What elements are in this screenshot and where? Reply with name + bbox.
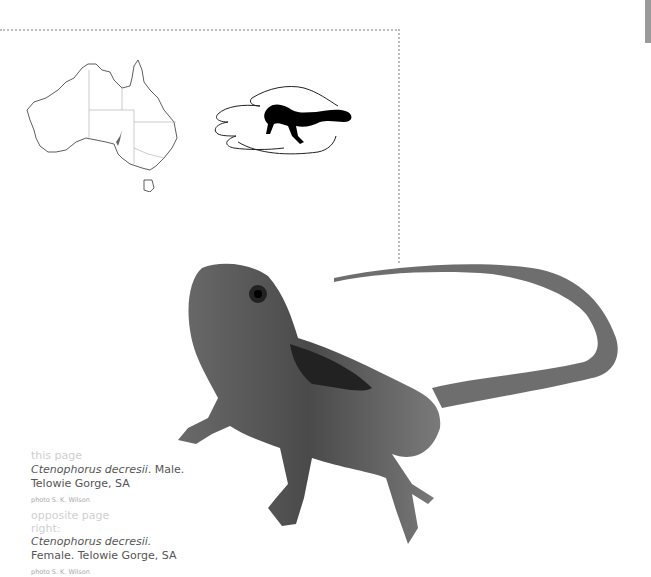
lizard-photo (172, 258, 624, 554)
caption-label: opposite page (31, 509, 177, 522)
photo-credit: photo S. K. Wilson (31, 492, 184, 508)
caption-this-page: this page Ctenophorus decresii. Male. Te… (31, 449, 184, 508)
species-name: Ctenophorus decresii. (31, 535, 177, 549)
caption-desc: . Male. (148, 463, 185, 476)
caption-desc: Female. Telowie Gorge, SA (31, 549, 177, 563)
page-edge-tab (645, 0, 651, 43)
caption-location: Telowie Gorge, SA (31, 477, 184, 491)
australia-map (24, 60, 184, 192)
dotted-border-right (398, 29, 400, 263)
caption-species-line: Ctenophorus decresii. Male. (31, 463, 184, 477)
caption-opposite-page: opposite page right: Ctenophorus decresi… (31, 509, 177, 577)
photo-credit: photo S. K. Wilson (31, 564, 177, 577)
caption-position: right: (31, 522, 177, 535)
species-name: Ctenophorus decresii (31, 463, 148, 476)
hand-scale-illustration (208, 84, 360, 156)
dotted-border-top (0, 29, 400, 31)
caption-label: this page (31, 449, 184, 463)
